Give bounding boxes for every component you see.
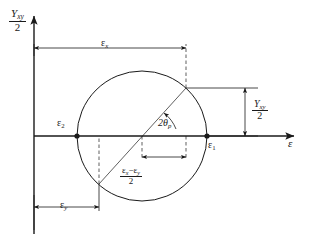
eps-1-label: ε1 bbox=[208, 140, 216, 152]
angle-symbol: 2θ bbox=[158, 117, 168, 128]
horizontal-axis-label: ε bbox=[288, 138, 292, 149]
point-eps-2 bbox=[74, 133, 79, 138]
figure-drawing bbox=[0, 0, 309, 251]
eps-y-subscript: y bbox=[64, 204, 67, 211]
eps-y-label: εy bbox=[60, 200, 67, 212]
half-diff-eps-y-sub: y bbox=[137, 170, 140, 176]
vaxis-denominator: 2 bbox=[9, 22, 26, 34]
angle-subscript: p bbox=[168, 122, 171, 129]
vertical-axis-label: Yxy 2 bbox=[9, 8, 26, 33]
gamma-half-label: Yxy 2 bbox=[252, 99, 268, 122]
eps-2-subscript: 2 bbox=[61, 122, 64, 129]
half-diff-denominator: 2 bbox=[120, 177, 142, 186]
eps-1-subscript: 1 bbox=[212, 144, 215, 151]
eps-2-label: ε2 bbox=[57, 118, 65, 130]
angle-label: 2θp bbox=[158, 118, 171, 130]
eps-x-subscript: x bbox=[105, 42, 108, 49]
mohr-circle-figure: Yxy 2 ε εx εy ε1 ε2 2θp Yxy 2 εx−εy 2 bbox=[0, 0, 309, 251]
point-eps-1 bbox=[204, 133, 209, 138]
gamma-right-subscript: xy bbox=[260, 103, 266, 110]
vaxis-subscript: xy bbox=[17, 12, 24, 21]
eps-x-label: εx bbox=[101, 38, 108, 50]
gamma-right-denominator: 2 bbox=[252, 111, 268, 122]
half-difference-label: εx−εy 2 bbox=[120, 166, 142, 187]
